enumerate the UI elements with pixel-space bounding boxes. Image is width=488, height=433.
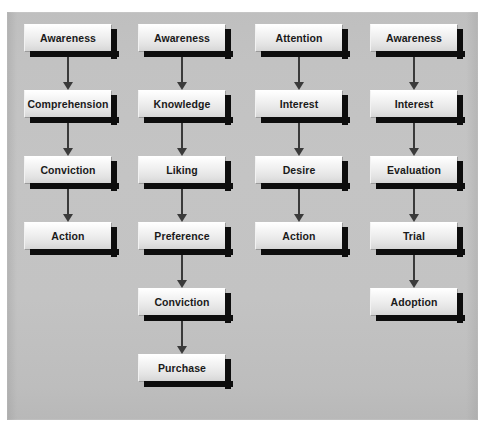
flow-node-label: Awareness	[386, 32, 442, 44]
arrow-head	[177, 214, 187, 222]
arrow-down-icon	[407, 250, 421, 288]
flow-node-label: Attention	[276, 32, 323, 44]
arrow-down-icon	[175, 118, 189, 156]
arrow-down-icon	[175, 316, 189, 354]
flow-node[interactable]: Trial	[370, 222, 458, 250]
flow-node[interactable]: Conviction	[138, 288, 226, 316]
flow-node-label: Action	[51, 230, 84, 242]
flow-node-label: Knowledge	[154, 98, 211, 110]
flow-node[interactable]: Awareness	[24, 24, 112, 52]
flow-node[interactable]: Adoption	[370, 288, 458, 316]
arrow-head	[409, 214, 419, 222]
flow-node[interactable]: Purchase	[138, 354, 226, 382]
arrow-down-icon	[61, 184, 75, 222]
arrow-head	[294, 148, 304, 156]
arrow-down-icon	[61, 118, 75, 156]
arrow-head	[294, 214, 304, 222]
flow-node[interactable]: Action	[24, 222, 112, 250]
flow-node[interactable]: Evaluation	[370, 156, 458, 184]
arrow-head	[63, 148, 73, 156]
flow-node-label: Interest	[280, 98, 319, 110]
flow-node-label: Trial	[403, 230, 425, 242]
arrow-down-icon	[292, 184, 306, 222]
diagram-canvas: AwarenessComprehensionConvictionActionAw…	[0, 0, 488, 433]
flow-node[interactable]: Conviction	[24, 156, 112, 184]
arrow-down-icon	[175, 250, 189, 288]
flow-node[interactable]: Knowledge	[138, 90, 226, 118]
flow-node[interactable]: Liking	[138, 156, 226, 184]
flow-node[interactable]: Interest	[255, 90, 343, 118]
arrow-head	[177, 148, 187, 156]
flow-node[interactable]: Awareness	[138, 24, 226, 52]
flow-node-label: Awareness	[154, 32, 210, 44]
flow-node-label: Awareness	[40, 32, 96, 44]
flow-node[interactable]: Attention	[255, 24, 343, 52]
flow-node-label: Interest	[395, 98, 434, 110]
flow-node[interactable]: Interest	[370, 90, 458, 118]
arrow-down-icon	[61, 52, 75, 90]
flow-node-label: Action	[282, 230, 315, 242]
flow-node[interactable]: Desire	[255, 156, 343, 184]
arrow-down-icon	[407, 184, 421, 222]
arrow-head	[294, 82, 304, 90]
flow-node-label: Liking	[166, 164, 198, 176]
flow-node-label: Preference	[154, 230, 209, 242]
flow-node[interactable]: Action	[255, 222, 343, 250]
flow-node-label: Conviction	[40, 164, 95, 176]
flow-node-label: Evaluation	[387, 164, 441, 176]
arrow-head	[63, 82, 73, 90]
arrow-head	[177, 280, 187, 288]
arrow-down-icon	[175, 52, 189, 90]
arrow-down-icon	[175, 184, 189, 222]
flow-node[interactable]: Preference	[138, 222, 226, 250]
arrow-head	[409, 82, 419, 90]
arrow-head	[63, 214, 73, 222]
flow-node-label: Desire	[283, 164, 316, 176]
arrow-head	[177, 82, 187, 90]
arrow-down-icon	[407, 52, 421, 90]
flow-node-label: Adoption	[391, 296, 438, 308]
flow-node-label: Conviction	[154, 296, 209, 308]
arrow-down-icon	[407, 118, 421, 156]
arrow-head	[177, 346, 187, 354]
arrow-down-icon	[292, 118, 306, 156]
arrow-head	[409, 148, 419, 156]
arrow-head	[409, 280, 419, 288]
flow-node[interactable]: Comprehension	[24, 90, 112, 118]
diagram-panel: AwarenessComprehensionConvictionActionAw…	[7, 12, 478, 420]
flow-node-label: Comprehension	[27, 98, 108, 110]
arrow-down-icon	[292, 52, 306, 90]
flow-node[interactable]: Awareness	[370, 24, 458, 52]
flow-node-label: Purchase	[158, 362, 206, 374]
